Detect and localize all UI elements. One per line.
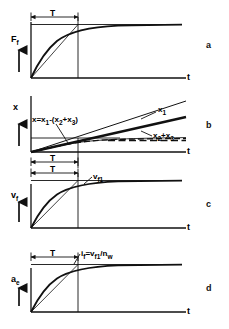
panel-d-response-curve <box>31 265 182 312</box>
panel-letter-d: d <box>206 283 212 293</box>
panel-b-y-axis-label: x <box>13 102 18 112</box>
panel-d-T-label: T <box>50 248 56 258</box>
panel-a-T-label: T <box>50 8 56 18</box>
panel-a <box>19 13 186 79</box>
panel-c-y-axis-label: vf <box>11 190 19 202</box>
panel-d-x-axis-label: t <box>187 306 190 316</box>
panel-b-x1-label: x1 <box>158 105 166 116</box>
panel-c-response-curve <box>31 181 182 228</box>
diagram-svg: Ff T t x T t x1 x2+x3 x=x1-(x2+x3) vf T … <box>0 0 229 329</box>
panel-a-y-axis-label: Ff <box>11 34 20 46</box>
panel-b-difference-label: x=x1-(x2+x3) <box>32 115 78 126</box>
panel-letter-a: a <box>206 40 211 50</box>
panel-letter-c: c <box>206 199 211 209</box>
panel-b-difference-leader <box>56 124 68 143</box>
figure-container: Ff T t x T t x1 x2+x3 x=x1-(x2+x3) vf T … <box>0 0 229 329</box>
panel-b-x2x3-label: x2+x3 <box>153 131 174 142</box>
panel-b-x-axis-label: t <box>187 146 190 156</box>
panel-b-T-label: T <box>50 153 56 163</box>
panel-c-T-label: T <box>50 164 56 174</box>
panel-letter-b: b <box>206 120 212 130</box>
panel-c-vf1-label: vf1 <box>93 172 104 183</box>
panel-d-y-axis-label: ae <box>11 274 20 286</box>
panel-d-if-label: if=vf1/nw <box>81 249 113 260</box>
panel-c-x-axis-label: t <box>187 222 190 232</box>
panel-d <box>19 253 186 313</box>
panel-a-response-curve <box>31 25 182 78</box>
panel-b-x2x3-leader <box>141 131 152 136</box>
panel-d-if-leader <box>74 254 80 264</box>
panel-a-x-axis-label: t <box>187 72 190 82</box>
